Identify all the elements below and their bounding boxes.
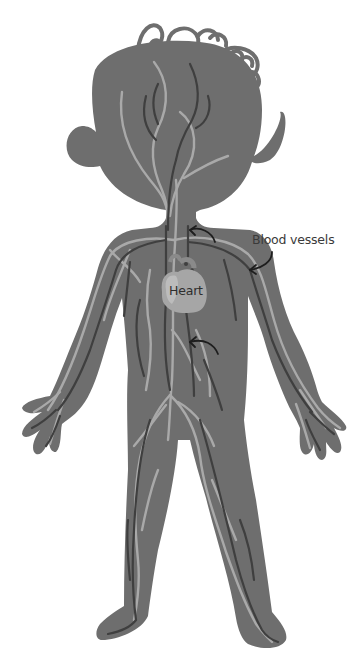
body-illustration [0, 0, 349, 667]
circulatory-diagram: Blood vessels Heart [0, 0, 349, 667]
blood-vessels-label: Blood vessels [252, 232, 334, 247]
heart-label: Heart [169, 283, 203, 298]
body-silhouette [22, 41, 346, 648]
